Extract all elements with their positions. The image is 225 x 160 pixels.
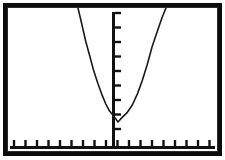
- graph-canvas: [8, 8, 217, 151]
- y-axis-ticks: [115, 13, 121, 129]
- screenshot-root: Upward-opening parabola on a bordered ca…: [0, 0, 225, 160]
- parabola-curve: [78, 8, 167, 122]
- x-axis-ticks: [14, 140, 210, 146]
- plot-area: [8, 8, 217, 151]
